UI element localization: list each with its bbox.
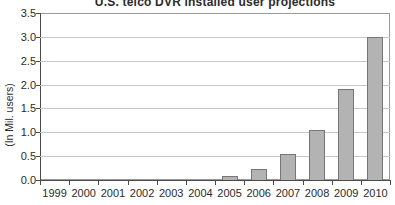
x-tick-11 — [361, 181, 362, 185]
chart-title: U.S. telco DVR installed user projection… — [40, 0, 390, 9]
x-tick-5 — [186, 181, 187, 185]
x-tick-label-2010: 2010 — [357, 187, 393, 199]
x-tick-4 — [157, 181, 158, 185]
bar-2006 — [251, 169, 267, 180]
x-tick-0 — [40, 181, 41, 185]
y-tick-2.5 — [36, 61, 40, 62]
gridline-2.0 — [40, 85, 390, 86]
bar-2010 — [367, 37, 383, 180]
y-tick-label-1.0: 1.0 — [10, 126, 36, 138]
x-tick-9 — [303, 181, 304, 185]
y-tick-0.5 — [36, 156, 40, 157]
y-tick-2.0 — [36, 85, 40, 86]
x-tick-2 — [98, 181, 99, 185]
bar-2007 — [280, 154, 296, 180]
bar-2005 — [222, 176, 238, 180]
x-tick-3 — [128, 181, 129, 185]
y-tick-label-0.0: 0.0 — [10, 174, 36, 186]
x-tick-6 — [215, 181, 216, 185]
y-tick-1.0 — [36, 132, 40, 133]
y-tick-3.0 — [36, 37, 40, 38]
x-tick-1 — [69, 181, 70, 185]
gridline-2.5 — [40, 61, 390, 62]
x-tick-12 — [390, 181, 391, 185]
y-tick-1.5 — [36, 108, 40, 109]
y-tick-label-1.5: 1.5 — [10, 102, 36, 114]
dvr-projections-chart: U.S. telco DVR installed user projection… — [0, 0, 395, 205]
x-tick-10 — [332, 181, 333, 185]
gridline-3.0 — [40, 37, 390, 38]
x-tick-7 — [244, 181, 245, 185]
y-tick-label-3.0: 3.0 — [10, 31, 36, 43]
y-tick-3.5 — [36, 13, 40, 14]
y-tick-label-0.5: 0.5 — [10, 150, 36, 162]
x-tick-8 — [273, 181, 274, 185]
bar-2008 — [309, 130, 325, 180]
y-tick-label-2.5: 2.5 — [10, 55, 36, 67]
y-tick-label-3.5: 3.5 — [10, 7, 36, 19]
y-tick-label-2.0: 2.0 — [10, 79, 36, 91]
bar-2009 — [338, 89, 354, 180]
x-axis-line — [37, 180, 391, 181]
